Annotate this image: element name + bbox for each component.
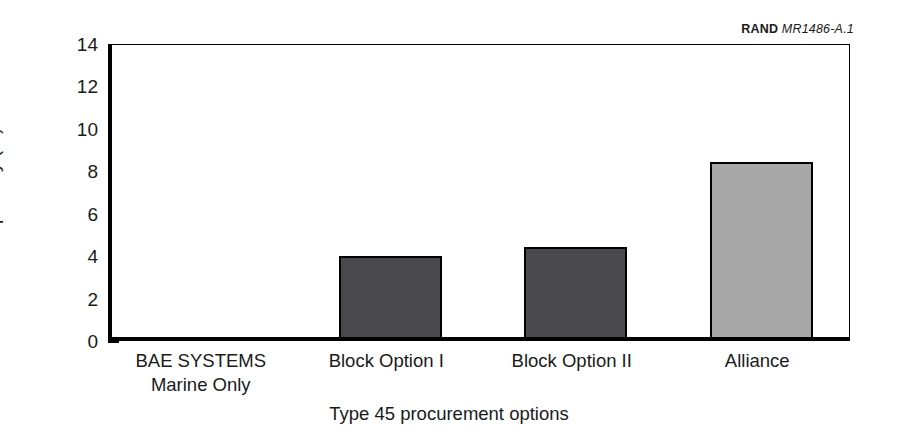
figure-credit-id: MR1486-A.1 xyxy=(782,22,854,36)
x-axis-category-label: Block Option II xyxy=(479,349,665,373)
x-axis-category-label-line: Marine Only xyxy=(108,373,294,397)
bar xyxy=(710,162,813,339)
y-axis-tick-label: 14 xyxy=(50,35,98,54)
plot-area xyxy=(108,44,850,341)
y-axis-tick-label: 8 xyxy=(50,162,98,181)
y-axis-tick-label: 4 xyxy=(50,247,98,266)
x-axis-category-label: BAE SYSTEMSMarine Only xyxy=(108,349,294,396)
y-axis-tick-label: 2 xyxy=(50,289,98,308)
figure-credit: RAND MR1486-A.1 xyxy=(741,22,854,36)
y-axis-tick-label: 6 xyxy=(50,204,98,223)
x-axis-category-label-line: Block Option II xyxy=(479,349,665,373)
bar xyxy=(524,247,627,339)
figure-credit-brand: RAND xyxy=(741,22,778,36)
x-axis-category-label-line: Block Option I xyxy=(294,349,480,373)
y-axis-title: Cost penalty (%) xyxy=(0,48,4,348)
bar xyxy=(339,256,442,339)
y-axis-tick-label: 0 xyxy=(50,332,98,351)
x-axis-category-label: Alliance xyxy=(665,349,851,373)
y-axis-tick-label: 10 xyxy=(50,119,98,138)
x-axis-category-label-line: Alliance xyxy=(665,349,851,373)
x-axis-category-label: Block Option I xyxy=(294,349,480,373)
x-axis-title: Type 45 procurement options xyxy=(0,403,898,425)
x-axis-category-label-line: BAE SYSTEMS xyxy=(108,349,294,373)
y-axis-tick-mark xyxy=(108,341,119,343)
y-axis-tick-label: 12 xyxy=(50,77,98,96)
